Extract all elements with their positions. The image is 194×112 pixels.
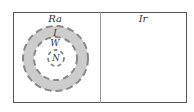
panel-title-ra: Ra bbox=[47, 13, 62, 24]
layer-label-w: W bbox=[50, 38, 60, 48]
panel-title-ir: Ir bbox=[138, 13, 149, 24]
layer-label-i: I bbox=[52, 28, 57, 38]
layer-label-n: N bbox=[51, 53, 60, 63]
diagram-canvas: Ra Ir I W N bbox=[0, 0, 194, 112]
